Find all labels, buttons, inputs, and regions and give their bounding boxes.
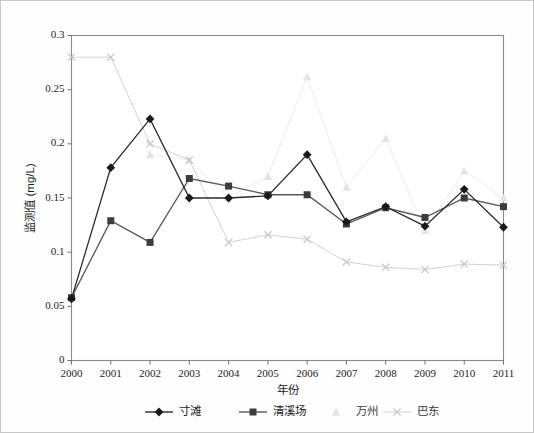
y-tick-label: 0.2 (51, 136, 65, 148)
y-axis-title: 监测值 (mg/L) (24, 163, 36, 233)
figure-container: 00.050.10.150.20.250.3200020012002200320… (0, 0, 534, 433)
legend-label: 巴东 (417, 405, 439, 417)
data-point-marker (250, 409, 257, 416)
plot-frame (72, 36, 504, 361)
x-tick-label: 2007 (335, 367, 358, 379)
data-point-marker (500, 203, 507, 210)
chart-canvas: 00.050.10.150.20.250.3200020012002200320… (1, 1, 534, 433)
y-tick-label: 0 (59, 353, 65, 365)
data-point-marker (107, 217, 114, 224)
data-point-marker (147, 239, 154, 246)
legend-label: 清溪场 (273, 404, 306, 417)
y-tick-label: 0.15 (45, 191, 65, 203)
x-tick-label: 2008 (375, 367, 398, 379)
legend-item-4[interactable]: 巴东 (383, 405, 439, 417)
y-tick-label: 0.05 (45, 299, 65, 311)
x-axis-title: 年份 (277, 383, 300, 396)
data-point-marker (304, 191, 311, 198)
legend-item-2[interactable]: 清溪场 (239, 404, 306, 417)
legend-label: 万州 (356, 405, 378, 417)
data-point-marker (461, 195, 468, 202)
x-tick-label: 2004 (218, 367, 241, 379)
data-point-marker (155, 408, 164, 417)
data-point-marker (186, 175, 193, 182)
x-tick-label: 2006 (296, 367, 319, 379)
x-tick-label: 2002 (139, 367, 161, 379)
data-point-marker (225, 183, 232, 190)
x-tick-label: 2011 (493, 367, 515, 379)
legend-item-3[interactable]: 万州 (332, 405, 378, 417)
x-tick-label: 2000 (61, 367, 84, 379)
line-chart: 00.050.10.150.20.250.3200020012002200320… (1, 1, 534, 433)
x-tick-label: 2003 (178, 367, 201, 379)
x-tick-label: 2010 (453, 367, 476, 379)
data-point-marker (421, 214, 428, 221)
legend-label: 寸滩 (179, 404, 201, 417)
y-tick-label: 0.1 (51, 245, 65, 257)
x-tick-label: 2001 (100, 367, 122, 379)
data-point-marker (332, 408, 340, 416)
y-tick-label: 0.25 (45, 82, 65, 94)
legend-item-1[interactable]: 寸滩 (145, 404, 201, 417)
x-tick-label: 2009 (414, 367, 437, 379)
x-tick-label: 2005 (257, 367, 280, 379)
y-tick-label: 0.3 (51, 28, 65, 40)
